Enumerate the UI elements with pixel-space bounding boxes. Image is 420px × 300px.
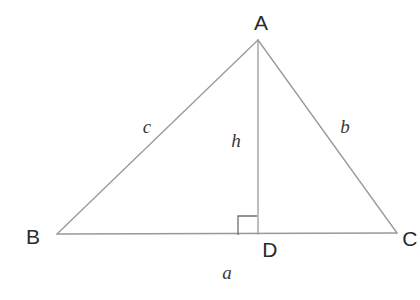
triangle-outline [57,40,397,234]
vertex-label-b: B [26,226,40,247]
vertex-label-c: C [402,228,417,249]
side-label-a-base: a [222,263,232,282]
vertex-label-a: A [254,12,268,33]
vertex-label-d: D [262,239,277,260]
side-label-c: c [143,117,151,136]
segment-bc-side-a-base [57,233,397,234]
side-label-b: b [340,117,350,136]
side-label-h-altitude: h [231,131,241,150]
triangle-diagram-svg [0,0,420,300]
segment-ab-side-c [57,40,258,234]
triangle-diagram-canvas: A B C D c h b a [0,0,420,300]
right-angle-marker-icon [238,216,257,235]
segment-ac-side-b [258,40,397,233]
